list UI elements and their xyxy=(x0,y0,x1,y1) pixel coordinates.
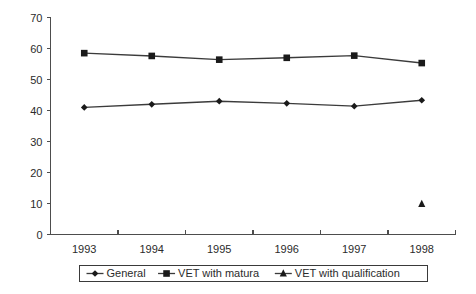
x-tick-label: 1993 xyxy=(72,243,96,255)
y-tick-label: 60 xyxy=(30,43,42,55)
y-tick-label: 30 xyxy=(30,136,42,148)
legend-label: General xyxy=(107,267,146,279)
legend-marker-square xyxy=(163,270,170,277)
chart-legend: GeneralVET with maturaVET with qualifica… xyxy=(80,266,428,282)
marker-square xyxy=(283,55,290,62)
x-tick-label: 1996 xyxy=(275,243,299,255)
marker-square xyxy=(148,53,155,60)
marker-square xyxy=(81,50,88,57)
marker-square xyxy=(351,52,358,59)
marker-square xyxy=(418,60,425,67)
y-tick-label: 0 xyxy=(36,229,42,241)
marker-square xyxy=(216,56,223,63)
x-tick-label: 1995 xyxy=(207,243,231,255)
chart-canvas: 010203040506070 199319941995199619971998… xyxy=(0,0,476,294)
legend-label: VET with qualification xyxy=(295,267,400,279)
x-tick-label: 1997 xyxy=(342,243,366,255)
y-tick-label: 70 xyxy=(30,12,42,24)
y-tick-label: 50 xyxy=(30,74,42,86)
x-tick-label: 1998 xyxy=(410,243,434,255)
line-chart: 010203040506070 199319941995199619971998… xyxy=(0,0,476,294)
y-tick-label: 10 xyxy=(30,198,42,210)
x-tick-label: 1994 xyxy=(140,243,164,255)
y-tick-label: 40 xyxy=(30,105,42,117)
y-tick-label: 20 xyxy=(30,167,42,179)
legend-label: VET with matura xyxy=(178,267,260,279)
